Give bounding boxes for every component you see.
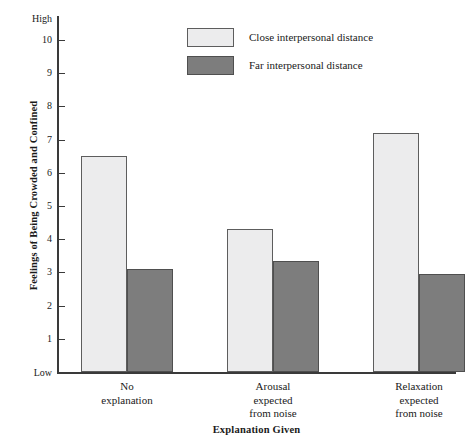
x-axis-title: Explanation Given — [57, 424, 456, 435]
y-tick-label-10: 10 — [0, 35, 52, 45]
x-tick-label-line: Relaxation — [344, 380, 469, 394]
y-tick-mark-7 — [58, 140, 65, 141]
y-tick-mark-3 — [58, 272, 65, 273]
y-axis-low-label: Low — [0, 367, 52, 378]
legend-label-close: Close interpersonal distance — [249, 30, 373, 45]
y-tick-text: 1 — [0, 334, 52, 344]
bar-close-group-2 — [227, 229, 273, 372]
bar-close-group-3 — [373, 133, 419, 372]
y-tick-mark-2 — [58, 306, 65, 307]
y-tick-mark-9 — [58, 73, 65, 74]
y-tick-text: 2 — [0, 301, 52, 311]
bar-far-group-1 — [127, 269, 173, 372]
bar-far-group-2 — [273, 261, 319, 372]
x-tick-label-group-1: Noexplanation — [52, 380, 202, 407]
bar-close-group-1 — [81, 156, 127, 372]
y-tick-text: 5 — [0, 201, 52, 211]
x-tick-label-group-2: Arousalexpectedfrom noise — [198, 380, 348, 421]
x-tick-label-line: from noise — [198, 407, 348, 421]
x-axis-line — [57, 372, 456, 374]
y-axis-high-label: High — [0, 13, 52, 24]
y-tick-label-5: 5 — [0, 201, 52, 211]
y-tick-text: 7 — [0, 135, 52, 145]
y-tick-label-8: 8 — [0, 101, 52, 111]
y-tick-text: 8 — [0, 101, 52, 111]
x-tick-label-line: No — [52, 380, 202, 394]
y-tick-label-6: 6 — [0, 168, 52, 178]
y-tick-label-3: 3 — [0, 267, 52, 277]
y-tick-label-2: 2 — [0, 301, 52, 311]
y-tick-text: 6 — [0, 168, 52, 178]
y-tick-mark-6 — [58, 173, 65, 174]
y-tick-label-7: 7 — [0, 135, 52, 145]
y-tick-label-1: 1 — [0, 334, 52, 344]
y-tick-label-9: 9 — [0, 68, 52, 78]
y-tick-text: 9 — [0, 68, 52, 78]
x-tick-label-group-3: Relaxationexpectedfrom noise — [344, 380, 469, 421]
y-tick-mark-8 — [58, 106, 65, 107]
x-tick-label-line: expected — [344, 394, 469, 408]
legend-swatch-far-icon — [187, 56, 234, 75]
x-tick-label-line: explanation — [52, 394, 202, 408]
x-tick-label-line: expected — [198, 394, 348, 408]
y-tick-label-4: 4 — [0, 234, 52, 244]
y-axis-line — [57, 16, 59, 373]
y-tick-mark-1 — [58, 339, 65, 340]
y-tick-mark-10 — [58, 40, 65, 41]
x-tick-label-line: from noise — [344, 407, 469, 421]
legend-swatch-close-icon — [187, 28, 234, 47]
y-tick-text: 10 — [0, 35, 52, 45]
y-tick-mark-5 — [58, 206, 65, 207]
x-tick-label-line: Arousal — [198, 380, 348, 394]
y-tick-text: 4 — [0, 234, 52, 244]
legend-label-far: Far interpersonal distance — [249, 58, 363, 73]
bar-far-group-3 — [419, 274, 465, 372]
y-tick-text: 3 — [0, 267, 52, 277]
y-tick-mark-4 — [58, 239, 65, 240]
